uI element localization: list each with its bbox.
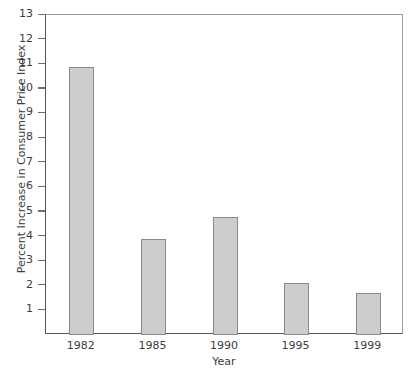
bar [141,239,166,335]
bar-chart-figure: 13121110987654321 Percent Increase in Co… [0,0,417,372]
x-axis-title: Year [45,354,403,369]
x-axis-tick-label: 1999 [337,338,397,353]
plot-area [45,14,403,334]
x-axis-tick-label: 1985 [122,338,182,353]
bar [356,293,381,335]
x-axis-tick-label: 1982 [51,338,111,353]
bar [213,217,238,335]
x-axis-tick-label: 1995 [266,338,326,353]
bar [69,67,94,335]
y-axis-title: Percent Increase in Consumer Price Index [14,0,30,319]
x-axis-tick-label: 1990 [194,338,254,353]
bar [284,283,309,335]
